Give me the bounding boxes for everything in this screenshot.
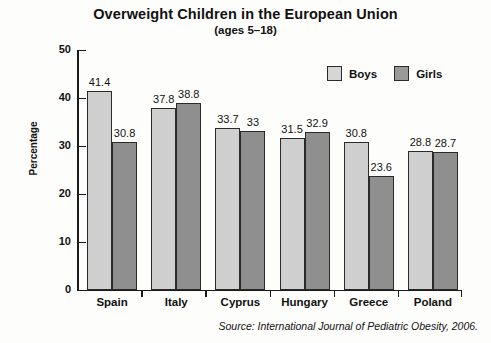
y-axis-tick: 30 bbox=[77, 146, 86, 148]
y-axis-tick-label: 20 bbox=[59, 187, 71, 199]
bar-value-label: 33.7 bbox=[217, 113, 238, 125]
plot-area: 01020304050 41.430.8Spain37.838.8Italy33… bbox=[77, 51, 462, 291]
y-axis-tick-label: 30 bbox=[59, 139, 71, 151]
bar-italy-boys: 37.8 bbox=[151, 108, 176, 289]
bar-value-label: 37.8 bbox=[153, 93, 174, 105]
bar-value-label: 28.8 bbox=[410, 136, 431, 148]
bar-value-label: 23.6 bbox=[371, 161, 392, 173]
y-axis-tick-label: 50 bbox=[59, 43, 71, 55]
bar-spain-boys: 41.4 bbox=[87, 91, 112, 290]
bar-italy-girls: 38.8 bbox=[176, 103, 201, 289]
bar-group: 37.838.8Italy bbox=[151, 51, 201, 290]
bar-cyprus-girls: 33 bbox=[240, 131, 265, 289]
x-axis-category-label: Poland bbox=[414, 296, 452, 308]
bar-poland-boys: 28.8 bbox=[408, 151, 433, 289]
bar-greece-boys: 30.8 bbox=[344, 142, 369, 290]
bar-group: 28.828.7Poland bbox=[408, 51, 458, 290]
bar-value-label: 28.7 bbox=[435, 137, 456, 149]
bar-value-label: 41.4 bbox=[89, 76, 110, 88]
x-axis-category-label: Spain bbox=[96, 296, 127, 308]
x-axis-tick bbox=[461, 291, 463, 297]
y-axis-tick-label: 10 bbox=[59, 235, 71, 247]
y-axis-tick: 0 bbox=[77, 290, 86, 292]
y-axis-tick: 50 bbox=[77, 50, 86, 52]
x-axis-category-label: Greece bbox=[349, 296, 388, 308]
bar-value-label: 33 bbox=[247, 116, 259, 128]
bar-spain-girls: 30.8 bbox=[112, 142, 137, 290]
x-axis-tick bbox=[205, 291, 207, 297]
chart-subtitle: (ages 5–18) bbox=[0, 23, 491, 37]
bar-value-label: 30.8 bbox=[346, 127, 367, 139]
y-axis-tick: 10 bbox=[77, 242, 86, 244]
chart-title: Overweight Children in the European Unio… bbox=[0, 6, 491, 23]
x-axis-category-label: Hungary bbox=[281, 296, 328, 308]
bar-value-label: 38.8 bbox=[178, 88, 199, 100]
x-axis-tick bbox=[334, 291, 336, 297]
bar-value-label: 30.8 bbox=[114, 127, 135, 139]
bar-hungary-girls: 32.9 bbox=[305, 132, 330, 290]
y-axis-tick-label: 40 bbox=[59, 91, 71, 103]
chart-canvas: Overweight Children in the European Unio… bbox=[0, 0, 491, 343]
title-block: Overweight Children in the European Unio… bbox=[0, 6, 491, 37]
bar-value-label: 32.9 bbox=[306, 117, 327, 129]
x-axis-category-label: Cyprus bbox=[221, 296, 261, 308]
bar-poland-girls: 28.7 bbox=[433, 152, 458, 290]
bar-group: 41.430.8Spain bbox=[87, 51, 137, 290]
bar-cyprus-boys: 33.7 bbox=[215, 128, 240, 290]
x-axis-tick bbox=[270, 291, 272, 297]
x-axis-category-label: Italy bbox=[165, 296, 188, 308]
bar-value-label: 31.5 bbox=[281, 123, 302, 135]
bar-group: 30.823.6Greece bbox=[344, 51, 394, 290]
y-axis-title: Percentage bbox=[28, 109, 39, 189]
bar-group: 33.733Cyprus bbox=[215, 51, 265, 290]
y-axis-tick: 40 bbox=[77, 98, 86, 100]
bar-group: 31.532.9Hungary bbox=[280, 51, 330, 290]
bar-greece-girls: 23.6 bbox=[369, 176, 394, 289]
y-axis-line bbox=[77, 51, 79, 291]
bar-hungary-boys: 31.5 bbox=[280, 138, 305, 289]
y-axis-tick: 20 bbox=[77, 194, 86, 196]
x-axis-tick bbox=[141, 291, 143, 297]
x-axis-tick bbox=[398, 291, 400, 297]
y-axis-tick-label: 0 bbox=[65, 283, 71, 295]
source-note: Source: International Journal of Pediatr… bbox=[218, 320, 478, 332]
